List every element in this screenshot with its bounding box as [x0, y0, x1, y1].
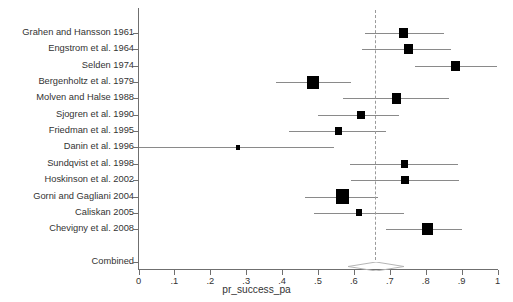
study-label-12: Chevigny et al. 2008 — [49, 224, 134, 233]
y-axis-tick — [133, 147, 138, 148]
study-label-2: Selden 1974 — [82, 61, 134, 70]
study-estimate-marker — [401, 160, 408, 168]
x-axis-title: pr_success_pa — [0, 285, 513, 295]
study-label-10: Gorni and Gagliani 2004 — [33, 192, 134, 201]
study-estimate-marker — [356, 209, 362, 216]
study-estimate-marker — [404, 44, 413, 54]
study-estimate-marker — [335, 127, 342, 135]
study-estimate-marker — [422, 223, 432, 235]
study-label-3: Bergenholtz et al. 1979 — [38, 77, 134, 86]
y-axis-tick — [133, 229, 138, 230]
combined-diamond-marker — [348, 257, 404, 266]
study-estimate-marker — [357, 111, 364, 119]
y-axis-tick — [133, 115, 138, 116]
y-axis-tick — [133, 131, 138, 132]
y-axis-tick — [133, 213, 138, 214]
study-label-8: Sundqvist et al. 1998 — [47, 159, 134, 168]
study-estimate-marker — [451, 61, 460, 71]
y-axis-tick — [133, 164, 138, 165]
y-axis-tick — [133, 66, 138, 67]
x-axis-tick — [354, 270, 355, 275]
study-label-1: Engstrom et al. 1964 — [48, 44, 134, 53]
y-axis-tick — [133, 262, 138, 263]
study-label-0: Grahen and Hansson 1961 — [22, 28, 134, 37]
study-label-4: Molven and Halse 1988 — [36, 93, 134, 102]
x-axis-tick — [426, 270, 427, 275]
y-axis-tick — [133, 197, 138, 198]
study-estimate-marker — [307, 76, 319, 89]
x-axis-tick — [210, 270, 211, 275]
x-axis-tick — [390, 270, 391, 275]
study-estimate-marker — [401, 176, 408, 184]
study-estimate-marker — [392, 93, 401, 103]
y-axis-tick — [133, 180, 138, 181]
study-estimate-marker — [236, 145, 241, 150]
x-axis-tick — [246, 270, 247, 275]
study-label-7: Danin et al. 1996 — [64, 142, 134, 151]
x-axis-tick — [498, 270, 499, 275]
study-label-5: Sjogren et al. 1990 — [56, 110, 134, 119]
study-estimate-marker — [399, 28, 408, 38]
x-axis-tick — [139, 270, 140, 275]
y-axis-tick — [133, 33, 138, 34]
study-label-6: Friedman et al. 1995 — [49, 126, 134, 135]
study-label-9: Hoskinson et al. 2002 — [45, 175, 134, 184]
study-estimate-marker — [336, 189, 349, 204]
y-axis-tick — [133, 82, 138, 83]
y-axis-line — [138, 8, 139, 270]
x-axis-tick — [174, 270, 175, 275]
x-axis-tick — [462, 270, 463, 275]
x-axis-tick — [318, 270, 319, 275]
forest-plot: Grahen and Hansson 1961Engstrom et al. 1… — [0, 0, 513, 302]
combined-label: Combined — [92, 257, 134, 266]
y-axis-tick — [133, 98, 138, 99]
x-axis-tick — [282, 270, 283, 275]
study-label-11: Caliskan 2005 — [75, 208, 134, 217]
y-axis-tick — [133, 49, 138, 50]
reference-line — [375, 10, 376, 260]
